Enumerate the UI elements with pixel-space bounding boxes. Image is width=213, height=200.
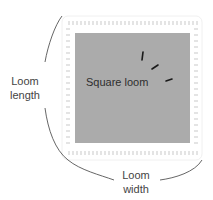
peg	[66, 52, 70, 54]
peg	[194, 28, 198, 30]
peg	[194, 100, 198, 102]
width-brace-left	[68, 160, 114, 180]
peg	[140, 151, 142, 155]
peg	[194, 40, 198, 42]
peg	[66, 76, 70, 78]
peg	[132, 151, 134, 155]
peg	[108, 151, 110, 155]
peg	[172, 151, 174, 155]
peg	[124, 21, 126, 25]
peg	[148, 151, 150, 155]
peg	[128, 151, 130, 155]
width-brace-right	[160, 160, 202, 180]
peg	[80, 21, 82, 25]
peg	[140, 21, 142, 25]
peg	[116, 151, 118, 155]
peg	[136, 21, 138, 25]
peg	[72, 21, 74, 25]
peg	[194, 118, 198, 120]
peg	[66, 136, 70, 138]
peg	[76, 21, 78, 25]
peg	[176, 151, 178, 155]
peg	[194, 94, 198, 96]
peg	[156, 21, 158, 25]
peg	[66, 88, 70, 90]
peg	[194, 76, 198, 78]
peg	[84, 21, 86, 25]
peg	[194, 52, 198, 54]
peg	[104, 151, 106, 155]
peg	[176, 21, 178, 25]
peg	[68, 21, 70, 25]
peg	[66, 94, 70, 96]
peg	[66, 28, 70, 30]
peg	[188, 151, 190, 155]
peg	[66, 58, 70, 60]
peg	[68, 151, 70, 155]
peg	[156, 151, 158, 155]
peg	[194, 46, 198, 48]
peg	[194, 142, 198, 144]
square-loom-label: Square loom	[86, 75, 156, 89]
peg	[66, 34, 70, 36]
peg	[66, 142, 70, 144]
peg	[76, 151, 78, 155]
peg	[144, 151, 146, 155]
peg	[184, 151, 186, 155]
peg	[194, 70, 198, 72]
peg	[180, 151, 182, 155]
peg	[196, 151, 198, 155]
peg	[194, 64, 198, 66]
peg	[194, 88, 198, 90]
peg	[108, 21, 110, 25]
peg	[132, 21, 134, 25]
length-brace-upper	[45, 16, 62, 62]
peg	[66, 100, 70, 102]
peg	[194, 136, 198, 138]
peg	[66, 64, 70, 66]
peg	[100, 151, 102, 155]
peg	[194, 82, 198, 84]
peg	[72, 151, 74, 155]
peg	[194, 124, 198, 126]
peg	[168, 151, 170, 155]
peg	[124, 151, 126, 155]
peg	[92, 151, 94, 155]
peg	[164, 151, 166, 155]
peg	[104, 21, 106, 25]
peg	[160, 21, 162, 25]
peg	[120, 21, 122, 25]
peg	[116, 21, 118, 25]
peg	[66, 130, 70, 132]
peg	[112, 21, 114, 25]
peg	[168, 21, 170, 25]
peg	[144, 21, 146, 25]
peg	[148, 21, 150, 25]
loom-width-label: Loomwidth	[114, 168, 158, 196]
peg	[66, 112, 70, 114]
peg	[172, 21, 174, 25]
peg	[188, 21, 190, 25]
peg	[194, 106, 198, 108]
peg	[164, 21, 166, 25]
peg	[194, 58, 198, 60]
peg	[84, 151, 86, 155]
peg	[66, 118, 70, 120]
peg	[152, 151, 154, 155]
peg	[80, 151, 82, 155]
peg	[66, 124, 70, 126]
peg	[194, 130, 198, 132]
peg	[180, 21, 182, 25]
peg	[112, 151, 114, 155]
peg	[194, 112, 198, 114]
peg	[136, 151, 138, 155]
peg	[194, 34, 198, 36]
peg	[128, 21, 130, 25]
peg	[66, 106, 70, 108]
peg	[66, 82, 70, 84]
peg	[66, 70, 70, 72]
peg	[160, 151, 162, 155]
peg	[184, 21, 186, 25]
peg	[196, 21, 198, 25]
peg	[120, 151, 122, 155]
